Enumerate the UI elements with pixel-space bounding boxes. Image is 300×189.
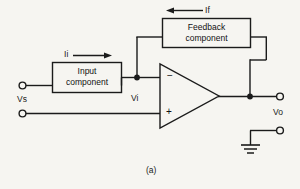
input-voltage-label: Vi	[131, 93, 139, 103]
terminal-vs-positive	[19, 82, 26, 89]
vi-junction-dot	[134, 75, 140, 81]
input-current-label: Ii	[64, 49, 68, 59]
input-current-arrow-head	[104, 52, 112, 58]
input-component-label-line2: component	[53, 77, 122, 88]
terminal-vo-negative	[277, 127, 284, 134]
figure-caption: (a)	[146, 165, 156, 175]
feedback-current-arrow-head	[166, 7, 174, 13]
input-component-label-line1: Input	[53, 66, 122, 77]
feedback-component-label: Feedback component	[163, 22, 251, 43]
terminal-vo-positive	[277, 93, 284, 100]
terminal-vs-negative	[19, 110, 26, 117]
output-voltage-label: Vo	[273, 107, 283, 117]
inverting-input-label: −	[167, 71, 173, 81]
feedback-current-label: If	[205, 5, 210, 15]
input-component-label: Input component	[53, 66, 122, 87]
feedback-component-label-line1: Feedback	[163, 22, 251, 33]
source-voltage-label: Vs	[17, 94, 27, 104]
circuit-schematic	[0, 0, 300, 189]
noninverting-input-label: +	[166, 107, 172, 117]
figure-canvas: Input component Feedback component Vs Vi…	[0, 0, 300, 189]
output-junction-dot	[247, 94, 253, 100]
feedback-component-label-line2: component	[163, 33, 251, 44]
